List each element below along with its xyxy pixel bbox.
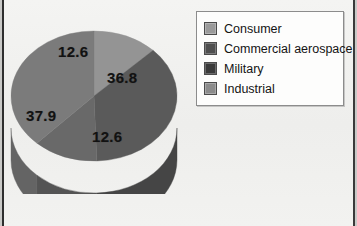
legend-label-commercial-aerospace: Commercial aerospace bbox=[224, 42, 353, 56]
scan-border-right bbox=[353, 0, 355, 226]
chart-legend: Consumer Commercial aerospace Military I… bbox=[196, 11, 344, 106]
pie-data-label-industrial: 37.9 bbox=[26, 107, 56, 124]
legend-item-industrial[interactable]: Industrial bbox=[204, 79, 337, 98]
legend-label-military: Military bbox=[224, 62, 264, 76]
legend-swatch-military bbox=[204, 62, 217, 75]
pie-data-label-military: 12.6 bbox=[92, 128, 122, 145]
legend-label-industrial: Industrial bbox=[224, 82, 275, 96]
legend-item-consumer[interactable]: Consumer bbox=[204, 19, 337, 38]
pie-data-label-commercial-aerospace: 36.8 bbox=[107, 69, 137, 86]
pie-chart: 12.6 36.8 12.6 37.9 bbox=[2, 14, 186, 214]
legend-swatch-commercial-aerospace bbox=[204, 42, 217, 55]
pie-data-label-consumer: 12.6 bbox=[58, 43, 88, 60]
legend-swatch-industrial bbox=[204, 82, 217, 95]
legend-item-military[interactable]: Military bbox=[204, 59, 337, 78]
legend-swatch-consumer bbox=[204, 22, 217, 35]
legend-item-commercial-aerospace[interactable]: Commercial aerospace bbox=[204, 39, 337, 58]
legend-label-consumer: Consumer bbox=[224, 22, 282, 36]
